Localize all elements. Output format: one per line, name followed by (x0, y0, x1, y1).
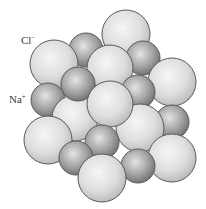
nacl-lattice-diagram: Cl− Na+ (0, 0, 206, 209)
svg-text:Cl−: Cl− (21, 34, 35, 46)
chloride-ion-sphere (148, 58, 196, 106)
svg-text:Na+: Na+ (9, 93, 26, 105)
chloride-ion-sphere (148, 134, 196, 182)
chloride-ion-sphere (87, 81, 133, 127)
sodium-symbol: Na (9, 93, 22, 105)
sodium-label: Na+ (9, 93, 26, 105)
chloride-symbol: Cl (21, 34, 31, 46)
chloride-ion-sphere (78, 154, 126, 202)
sodium-charge: + (22, 93, 26, 101)
chloride-charge: − (31, 34, 35, 42)
chloride-label: Cl− (21, 34, 35, 46)
ion-spheres (24, 10, 196, 202)
